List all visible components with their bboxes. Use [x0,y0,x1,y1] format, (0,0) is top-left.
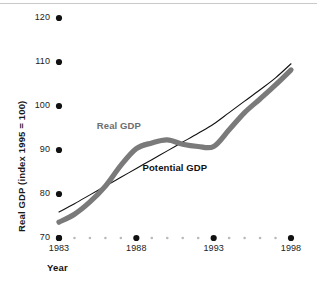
x-axis-major-ticks [56,235,294,241]
chart-figure: Real GDP (index 1995 = 100) 120 110 100 … [0,0,317,281]
y-axis-ticks [56,15,62,241]
line-potential-gdp [59,64,291,212]
plot-area [0,0,317,281]
x-axis-minor-ticks [73,237,277,240]
